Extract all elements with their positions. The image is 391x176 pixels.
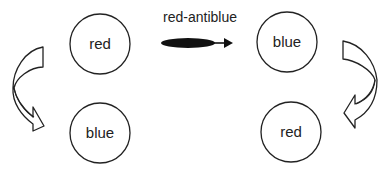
right-top-node: blue — [257, 12, 317, 72]
right-bottom-node: red — [261, 102, 321, 162]
left-bottom-node: blue — [70, 103, 130, 163]
left-curved-arrow-icon — [13, 47, 44, 131]
left-top-node: red — [70, 14, 130, 74]
antibody-arrow-icon — [161, 38, 233, 48]
right-bottom-node-label: red — [280, 123, 302, 140]
left-bottom-node-label: blue — [86, 124, 114, 141]
right-curved-arrow-icon — [343, 41, 377, 128]
right-top-node-label: blue — [273, 33, 301, 50]
diagram-canvas: red blue red-antiblue blue red — [0, 0, 391, 176]
left-top-node-label: red — [89, 35, 111, 52]
reaction-label: red-antiblue — [163, 9, 237, 25]
